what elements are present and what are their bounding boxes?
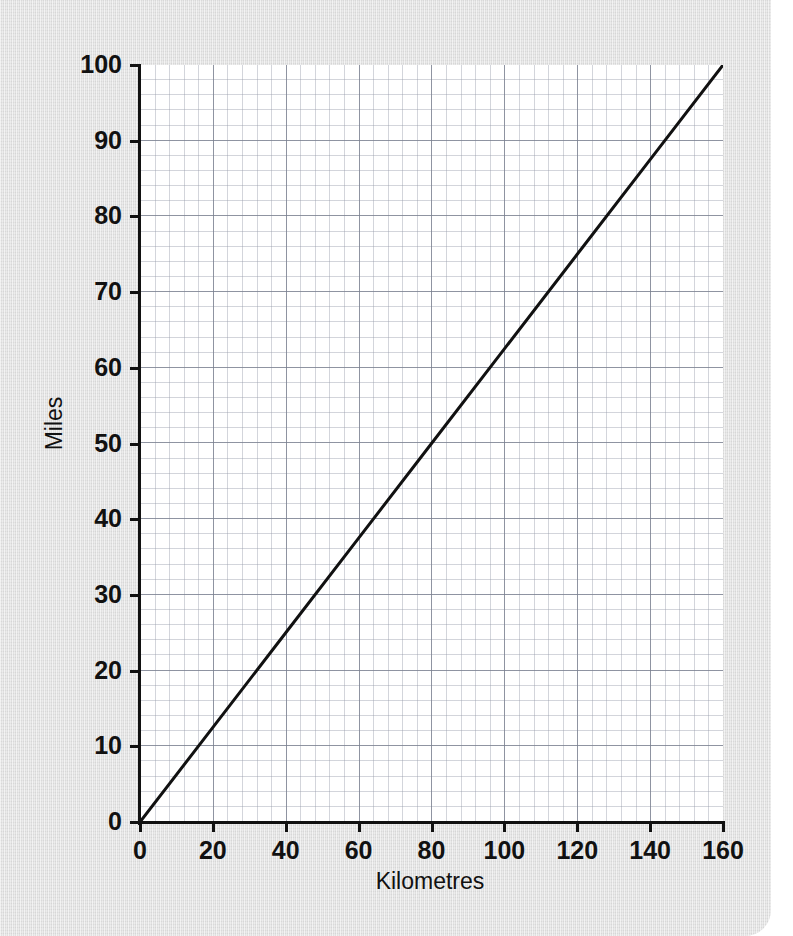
y-tick-60 [130,367,139,370]
y-tick-label-wrap-0: 0 [62,809,122,835]
y-tick-label-100: 100 [62,52,122,77]
y-tick-label-wrap-10: 10 [62,733,122,759]
series-line-kilometres-to-miles [140,65,723,822]
y-tick-100 [130,64,139,67]
data-series-line [140,65,723,822]
y-tick-10 [130,745,139,748]
y-tick-label-wrap-60: 60 [62,355,122,381]
x-tick-80 [431,823,434,832]
y-tick-label-wrap-50: 50 [62,431,122,457]
y-tick-label-20: 20 [62,658,122,683]
y-tick-label-wrap-80: 80 [62,203,122,229]
y-tick-label-wrap-70: 70 [62,279,122,305]
x-axis-title: Kilometres [330,868,530,895]
y-tick-20 [130,670,139,673]
x-tick-40 [285,823,288,832]
y-tick-label-wrap-90: 90 [62,128,122,154]
y-tick-70 [130,291,139,294]
y-tick-label-wrap-20: 20 [62,658,122,684]
y-tick-80 [130,215,139,218]
plot-area [140,65,723,822]
x-tick-100 [503,823,506,832]
x-tick-0 [139,823,142,832]
x-tick-label-160: 160 [678,838,768,863]
y-tick-label-90: 90 [62,128,122,153]
x-tick-140 [649,823,652,832]
y-tick-90 [130,140,139,143]
x-tick-160 [722,823,725,832]
y-tick-label-60: 60 [62,355,122,380]
y-tick-label-10: 10 [62,733,122,758]
y-axis-title: Miles [41,364,68,484]
y-tick-label-40: 40 [62,506,122,531]
x-tick-60 [358,823,361,832]
y-tick-label-70: 70 [62,279,122,304]
y-tick-label-wrap-40: 40 [62,506,122,532]
y-tick-label-30: 30 [62,582,122,607]
y-tick-50 [130,443,139,446]
y-tick-40 [130,518,139,521]
y-tick-label-wrap-30: 30 [62,582,122,608]
x-tick-120 [576,823,579,832]
y-tick-label-80: 80 [62,203,122,228]
y-tick-0 [130,821,139,824]
conversion-graph-figure: 0102030405060708090100 02040608010012014… [0,0,793,936]
y-tick-label-50: 50 [62,431,122,456]
y-tick-label-wrap-100: 100 [62,52,122,78]
y-tick-label-0: 0 [62,809,122,834]
y-tick-30 [130,594,139,597]
x-tick-20 [212,823,215,832]
